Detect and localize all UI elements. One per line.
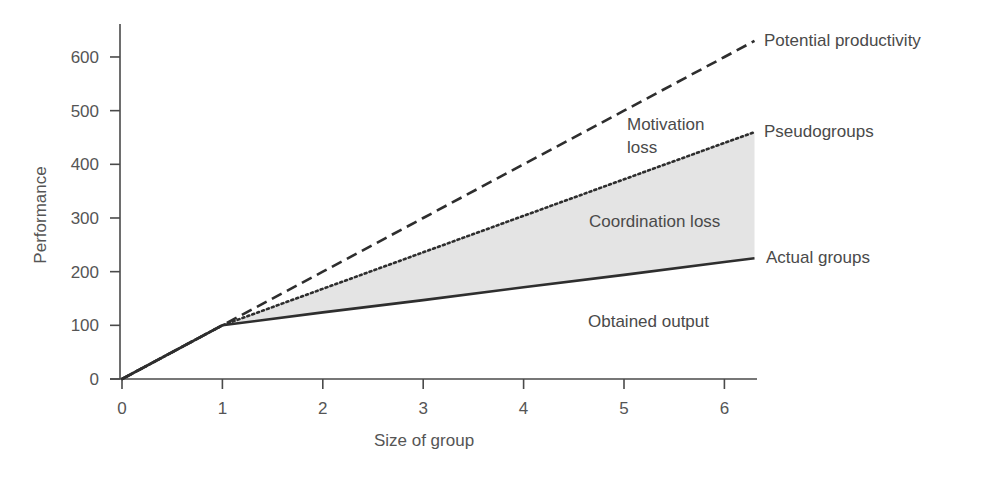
y-tick-label: 100 [71,316,99,335]
motivation-loss-annotation-line2: loss [627,138,657,157]
y-axis-title: Performance [31,166,50,263]
series-label-potential-productivity: Potential productivity [764,31,921,50]
x-tick-label: 1 [218,399,227,418]
x-tick-label: 4 [519,399,528,418]
obtained-output-annotation: Obtained output [588,312,709,331]
x-axis-ticks: 0123456 [117,379,729,418]
series-label-actual-groups: Actual groups [766,248,870,267]
y-tick-label: 600 [71,48,99,67]
y-tick-label: 300 [71,209,99,228]
group-performance-chart: 0100200300400500600 0123456 Performance … [0,0,995,477]
x-tick-label: 2 [318,399,327,418]
motivation-loss-annotation-line1: Motivation [627,115,704,134]
coordination-loss-annotation: Coordination loss [589,212,720,231]
y-tick-label: 400 [71,155,99,174]
y-tick-label: 500 [71,102,99,121]
x-tick-label: 5 [619,399,628,418]
x-tick-label: 0 [117,399,126,418]
x-axis-title: Size of group [374,431,474,450]
y-tick-label: 0 [90,370,99,389]
series-label-pseudogroups: Pseudogroups [764,122,874,141]
y-axis-ticks: 0100200300400500600 [71,48,120,389]
x-tick-label: 6 [720,399,729,418]
y-tick-label: 200 [71,263,99,282]
x-tick-label: 3 [418,399,427,418]
